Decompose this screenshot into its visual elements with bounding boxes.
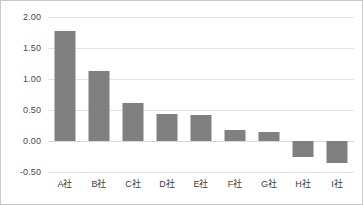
bar[interactable] bbox=[293, 141, 314, 158]
x-tick-label: G社 bbox=[252, 177, 286, 190]
x-tick-label: C社 bbox=[116, 177, 150, 190]
bar-slot bbox=[218, 17, 252, 172]
bar-slot bbox=[184, 17, 218, 172]
bar[interactable] bbox=[55, 31, 76, 141]
bar-slot bbox=[286, 17, 320, 172]
x-tick-label: E社 bbox=[184, 177, 218, 190]
bar[interactable] bbox=[89, 71, 110, 141]
y-axis: 2.001.501.000.500.00-0.50 bbox=[1, 1, 47, 205]
y-tick-label: -0.50 bbox=[20, 167, 41, 177]
plot-area bbox=[48, 17, 354, 172]
bar[interactable] bbox=[225, 130, 246, 141]
bar-slot bbox=[320, 17, 354, 172]
bar-slot bbox=[150, 17, 184, 172]
x-tick-label: H社 bbox=[286, 177, 320, 190]
x-tick-label: D社 bbox=[150, 177, 184, 190]
bar-slot bbox=[116, 17, 150, 172]
y-tick-label: 1.00 bbox=[23, 74, 41, 84]
y-tick-label: 1.50 bbox=[23, 43, 41, 53]
y-tick-label: 0.50 bbox=[23, 105, 41, 115]
bar-chart: 2.001.501.000.500.00-0.50 A社B社C社D社E社F社G社… bbox=[0, 0, 363, 205]
x-tick-label: A社 bbox=[48, 177, 82, 190]
bar[interactable] bbox=[259, 132, 280, 141]
bar[interactable] bbox=[123, 103, 144, 140]
bar-slot bbox=[82, 17, 116, 172]
x-tick-label: F社 bbox=[218, 177, 252, 190]
gridline bbox=[48, 172, 354, 173]
x-axis: A社B社C社D社E社F社G社H社I社 bbox=[48, 177, 354, 190]
y-tick-label: 0.00 bbox=[23, 136, 41, 146]
bar[interactable] bbox=[327, 141, 348, 163]
bar[interactable] bbox=[157, 114, 178, 141]
y-tick-label: 2.00 bbox=[23, 12, 41, 22]
x-tick-label: B社 bbox=[82, 177, 116, 190]
x-tick-label: I社 bbox=[320, 177, 354, 190]
bar[interactable] bbox=[191, 115, 212, 141]
bar-slot bbox=[48, 17, 82, 172]
bar-slot bbox=[252, 17, 286, 172]
bars-layer bbox=[48, 17, 354, 172]
